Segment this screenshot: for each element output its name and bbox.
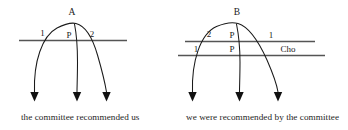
left-arrowhead-2 — [73, 92, 81, 102]
left-label-1: 1 — [40, 28, 45, 38]
right-lower-label-cho: Cho — [280, 44, 296, 54]
right-arc-middle — [237, 24, 241, 92]
right-arrowhead-3 — [274, 92, 282, 102]
left-caption: the committee recommended us — [21, 112, 140, 122]
right-apex-label: B — [234, 7, 240, 17]
right-upper-label-left: 2 — [207, 29, 212, 39]
right-arc-outer — [192, 23, 278, 92]
left-label-2: 2 — [90, 29, 95, 39]
right-upper-label-right: 1 — [269, 30, 274, 40]
left-arrowhead-1 — [30, 92, 38, 102]
left-label-p: P — [66, 30, 71, 40]
right-panel: B 2 P 1 1 P Cho — [178, 7, 325, 102]
left-arrowhead-3 — [102, 92, 110, 102]
right-arrowhead-2 — [235, 92, 243, 102]
diagram-canvas: A 1 P 2 B 2 P 1 1 P Cho — [0, 0, 348, 130]
left-apex-label: A — [69, 7, 76, 17]
right-caption: we were recommended by the committee — [186, 112, 339, 122]
dependency-diagram-figure: A 1 P 2 B 2 P 1 1 P Cho — [0, 0, 348, 130]
left-arc-middle — [75, 24, 78, 92]
right-lower-label-mid: P — [229, 44, 234, 54]
right-upper-label-mid: P — [229, 30, 234, 40]
right-arrowhead-1 — [188, 92, 196, 102]
right-lower-label-left: 1 — [194, 44, 199, 54]
left-panel: A 1 P 2 — [19, 7, 127, 102]
